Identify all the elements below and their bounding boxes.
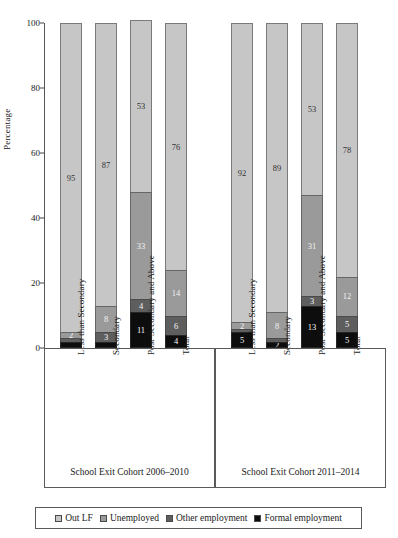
legend-label-other-employment: Other employment — [176, 513, 248, 523]
bar-value-label: 4 — [139, 302, 143, 311]
bar-segment: 78 — [336, 23, 358, 277]
y-tick-label: 80 — [31, 83, 40, 93]
bar-segment: 12 — [336, 277, 358, 316]
y-axis-label: Percentage — [2, 109, 12, 150]
bar-segment: 76 — [165, 23, 187, 270]
y-tick-label: 20 — [31, 278, 40, 288]
group-caption-1: School Exit Cohort 2006–2010 — [44, 467, 215, 477]
bar-value-label: 4 — [174, 337, 178, 346]
category-label: Post-Secondary and Above — [146, 255, 156, 355]
bar-segment: 89 — [266, 23, 288, 312]
bar-value-label: 31 — [308, 242, 317, 251]
legend-item[interactable]: Formal employment — [254, 513, 341, 523]
bar-2-2[interactable]: 8982 — [266, 23, 288, 348]
bar-value-label: 13 — [308, 323, 317, 332]
y-tick-label: 60 — [31, 148, 40, 158]
y-axis-line — [44, 23, 45, 349]
bar-value-label: 92 — [238, 169, 247, 178]
bar-value-label: 5 — [240, 336, 244, 345]
bar-value-label: 33 — [137, 242, 146, 251]
bar-segment: 53 — [130, 20, 152, 192]
bar-segment: 5 — [336, 316, 358, 332]
bar-value-label: 12 — [343, 292, 352, 301]
bar-1-2[interactable]: 8783 — [95, 23, 117, 348]
group-caption-2: School Exit Cohort 2011–2014 — [215, 467, 386, 477]
bars-area: 9528783533341176146492258982533131378125… — [46, 23, 386, 348]
bar-value-label: 8 — [104, 315, 108, 324]
bar-value-label: 89 — [273, 164, 282, 173]
legend-swatch-out-lf — [55, 515, 62, 522]
legend-swatch-unemployed — [100, 515, 107, 522]
legend-label-unemployed: Unemployed — [110, 513, 159, 523]
bar-value-label: 5 — [345, 320, 349, 329]
bar-value-label: 3 — [310, 297, 314, 306]
bar-segment: 53 — [301, 23, 323, 195]
legend-item[interactable]: Unemployed — [100, 513, 159, 523]
bar-segment: 92 — [231, 23, 253, 322]
bar-1-4[interactable]: 761464 — [165, 23, 187, 348]
bar-segment: 14 — [165, 270, 187, 316]
bar-value-label: 6 — [174, 322, 178, 331]
y-tick-label: 40 — [31, 213, 40, 223]
legend-item[interactable]: Other employment — [166, 513, 248, 523]
bar-segment: 87 — [95, 23, 117, 306]
legend-label-out-lf: Out LF — [65, 513, 93, 523]
bar-value-label: 53 — [137, 102, 146, 111]
bar-2-4[interactable]: 781255 — [336, 23, 358, 348]
bar-value-label: 3 — [104, 333, 108, 342]
bar-value-label: 8 — [275, 322, 279, 331]
bar-value-label: 5 — [345, 336, 349, 345]
legend-swatch-other-employment — [166, 515, 173, 522]
chart-legend: Out LF Unemployed Other employment Forma… — [35, 507, 362, 529]
bar-segment: 6 — [165, 316, 187, 336]
chart-canvas: Percentage 100806040200 9528783533341176… — [0, 0, 398, 538]
bar-value-label: 87 — [102, 161, 111, 170]
legend-label-formal-employment: Formal employment — [264, 513, 341, 523]
category-label: Less than Secondary — [76, 279, 86, 355]
category-label: Less than Secondary — [247, 279, 257, 355]
legend-item[interactable]: Out LF — [55, 513, 93, 523]
bar-value-label: 14 — [172, 289, 181, 298]
legend-swatch-formal-employment — [254, 515, 261, 522]
bar-value-label: 11 — [137, 326, 145, 335]
bar-value-label: 53 — [308, 105, 317, 114]
bar-value-label: 95 — [67, 174, 76, 183]
bar-value-label: 76 — [172, 143, 181, 152]
category-label: Post-Secondary and Above — [317, 255, 327, 355]
bar-value-label: 78 — [343, 146, 352, 155]
y-tick-label: 100 — [27, 18, 41, 28]
